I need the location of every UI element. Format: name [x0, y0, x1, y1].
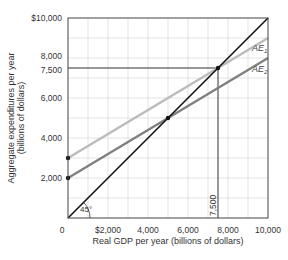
y-axis-title-line2: (billions of dollars) — [16, 82, 26, 155]
x-tick-label: $2,000 — [95, 225, 121, 235]
y-tick-label: 4,000 — [41, 133, 63, 143]
x-tick-label: 0 — [60, 225, 65, 235]
y-axis-title-line1: Aggregate expenditures per year — [6, 52, 16, 183]
x-tick-label: 6,000 — [177, 225, 199, 235]
y-tick-label: 8,000 — [41, 51, 63, 61]
data-point — [216, 66, 220, 70]
x-axis-ticks: 0$2,0004,0006,0008,00010,000 — [60, 225, 282, 235]
x-axis-title: Real GDP per year (billions of dollars) — [93, 236, 244, 246]
series-label-ae2: AE2 — [251, 64, 268, 75]
y-tick-label: 7,500 — [41, 65, 63, 75]
x-tick-label: 10,000 — [255, 225, 281, 235]
y-axis-ticks: 2,0004,0006,0007,5008,000$10,000 — [31, 13, 62, 183]
angle-label: 45° — [80, 205, 92, 214]
x-tick-label: 8,000 — [217, 225, 239, 235]
y-tick-label: 2,000 — [41, 173, 63, 183]
series-label-ae1: AE1 — [251, 43, 267, 54]
y-tick-label: 6,000 — [41, 93, 63, 103]
data-point — [166, 116, 170, 120]
reference-value-label: 7,500 — [208, 194, 218, 216]
data-points — [66, 66, 220, 180]
aggregate-expenditure-chart: 0$2,0004,0006,0008,00010,000 2,0004,0006… — [0, 0, 288, 260]
y-tick-label: $10,000 — [31, 13, 62, 23]
x-tick-label: 4,000 — [137, 225, 159, 235]
